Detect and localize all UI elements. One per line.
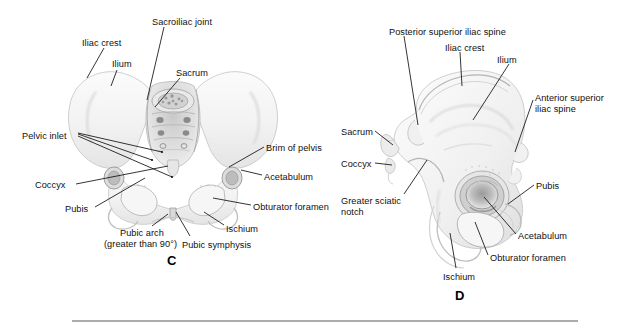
label-pubis: Pubis — [65, 204, 88, 215]
label-ilium: Ilium — [497, 55, 517, 66]
label-iliac-crest: Iliac crest — [82, 38, 121, 49]
pelvis-anterior-illustration — [68, 72, 277, 229]
label-greater-sciatic-notch-line2: notch — [341, 207, 364, 218]
label-pubic-arch: Pubic arch — [120, 228, 164, 239]
panel-letter-d: D — [455, 288, 464, 303]
label-pubis: Pubis — [536, 181, 559, 192]
panel-letter-c: C — [167, 253, 176, 268]
label-sacrum: Sacrum — [341, 127, 373, 138]
label-sacroiliac-joint: Sacroiliac joint — [152, 17, 212, 28]
label-anterior-superior-iliac-spine-line2: iliac spine — [535, 104, 576, 115]
label-coccyx: Coccyx — [35, 180, 65, 191]
label-acetabulum: Acetabulum — [518, 231, 567, 242]
label-iliac-crest: Iliac crest — [445, 43, 484, 54]
label-acetabulum: Acetabulum — [264, 172, 313, 183]
hip-bone-lateral-illustration — [381, 70, 528, 268]
label-ischium: Ischium — [443, 272, 475, 283]
label-posterior-superior-iliac-spine: Posterior superior iliac spine — [389, 27, 506, 38]
label-pubic-symphysis: Pubic symphysis — [182, 240, 251, 251]
label-pelvic-inlet: Pelvic inlet — [22, 131, 67, 142]
label-greater-sciatic-notch-line1: Greater sciatic — [341, 196, 401, 207]
label-obturator-foramen: Obturator foramen — [490, 253, 566, 264]
anatomy-figure: Iliac crest Ilium Sacroiliac joint Sacru… — [0, 0, 630, 333]
label-pubic-arch-note: (greater than 90°) — [104, 239, 177, 250]
label-ilium: Ilium — [112, 59, 132, 70]
label-sacrum: Sacrum — [176, 68, 208, 79]
label-brim-of-pelvis: Brim of pelvis — [266, 143, 322, 154]
figure-illustrations — [0, 0, 630, 333]
label-coccyx: Coccyx — [341, 159, 371, 170]
label-obturator-foramen: Obturator foramen — [253, 202, 329, 213]
label-anterior-superior-iliac-spine-line1: Anterior superior — [535, 93, 604, 104]
label-ischium: Ischium — [226, 224, 258, 235]
